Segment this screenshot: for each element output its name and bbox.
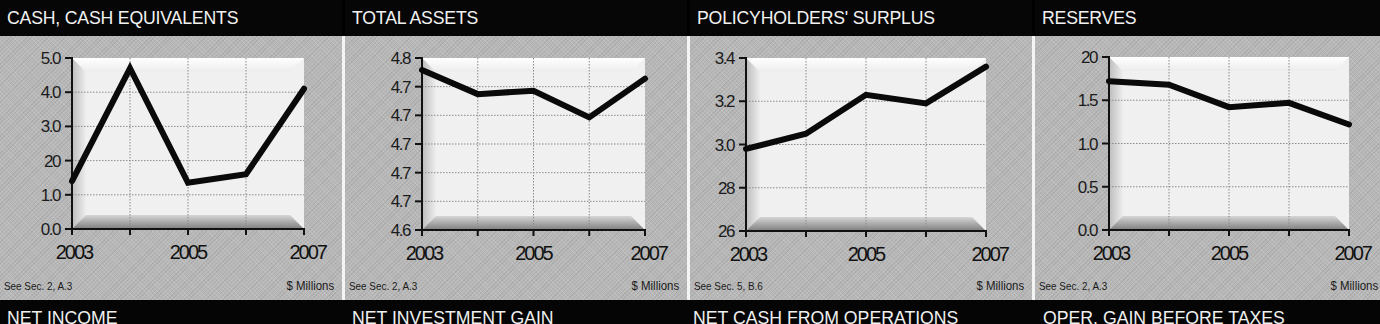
svg-text:2005: 2005	[170, 241, 208, 263]
section-reference: See Sec. 5, B.6	[694, 280, 763, 292]
line-chart: 0.00.51.01.520200320052007	[1035, 36, 1380, 280]
svg-text:2007: 2007	[631, 242, 669, 264]
svg-text:4.7: 4.7	[391, 164, 411, 183]
svg-text:2003: 2003	[56, 241, 94, 263]
chart-title-net-investment-gain: NET INVESTMENT GAIN	[352, 307, 554, 324]
svg-text:20: 20	[1081, 48, 1098, 67]
svg-text:3.4: 3.4	[715, 49, 735, 68]
chart-panel-policyholders-surplus: POLICYHOLDERS' SURPLUS 26283.03.23.42003…	[690, 0, 1032, 300]
units-label: $ Millions	[976, 278, 1024, 293]
panel-header: TOTAL ASSETS	[345, 0, 687, 36]
chart-title: CASH, CASH EQUIVALENTS	[7, 7, 238, 29]
svg-text:1.0: 1.0	[1078, 135, 1098, 154]
svg-text:28: 28	[718, 179, 735, 198]
chart-title-oper-gain-before-taxes: OPER. GAIN BEFORE TAXES	[1043, 307, 1285, 324]
svg-text:2003: 2003	[406, 242, 444, 264]
chart-title-net-cash-from-operations: NET CASH FROM OPERATIONS	[693, 307, 958, 324]
svg-text:2003: 2003	[1093, 242, 1131, 264]
svg-text:4.0: 4.0	[41, 83, 61, 102]
chart-panel-reserves: RESERVES 0.00.51.01.520200320052007 See …	[1035, 0, 1380, 300]
line-chart: 26283.03.23.4200320052007	[690, 36, 1032, 280]
svg-text:0.0: 0.0	[41, 220, 61, 239]
chart-title: TOTAL ASSETS	[352, 7, 478, 29]
section-reference: See Sec. 2, A.3	[1039, 280, 1107, 292]
chart-title-net-income: NET INCOME	[7, 307, 118, 324]
svg-text:2005: 2005	[515, 242, 553, 264]
svg-text:4.7: 4.7	[391, 78, 411, 97]
svg-text:1.5: 1.5	[1078, 91, 1098, 110]
panel-header: POLICYHOLDERS' SURPLUS	[690, 0, 1032, 36]
svg-text:2005: 2005	[848, 243, 886, 265]
units-label: $ Millions	[1330, 278, 1378, 293]
svg-text:5.0: 5.0	[41, 49, 61, 68]
svg-text:1.0: 1.0	[41, 186, 61, 205]
svg-text:4.8: 4.8	[391, 49, 411, 68]
svg-text:3.0: 3.0	[715, 136, 735, 155]
section-reference: See Sec. 2, A.3	[4, 280, 72, 292]
svg-text:2005: 2005	[1211, 242, 1249, 264]
units-label: $ Millions	[631, 278, 679, 293]
svg-text:4.7: 4.7	[391, 106, 411, 125]
chart-title: POLICYHOLDERS' SURPLUS	[697, 7, 935, 29]
chart-panel-cash: CASH, CASH EQUIVALENTS 0.01.0203.04.05.0…	[0, 0, 342, 300]
section-reference: See Sec. 2, A.3	[349, 280, 417, 292]
svg-text:0.0: 0.0	[1078, 221, 1098, 240]
chart-panel-total-assets: TOTAL ASSETS 4.64.74.74.74.74.74.8200320…	[345, 0, 687, 300]
line-chart: 4.64.74.74.74.74.74.8200320052007	[345, 36, 687, 280]
svg-text:3.0: 3.0	[41, 117, 61, 136]
svg-text:2007: 2007	[1335, 242, 1373, 264]
svg-text:4.6: 4.6	[391, 221, 411, 240]
svg-text:0.5: 0.5	[1078, 178, 1098, 197]
line-chart: 0.01.0203.04.05.0200320052007	[0, 36, 342, 280]
panel-header: CASH, CASH EQUIVALENTS	[0, 0, 342, 36]
svg-text:4.7: 4.7	[391, 192, 411, 211]
svg-text:3.2: 3.2	[715, 92, 735, 111]
svg-text:2007: 2007	[972, 243, 1010, 265]
svg-text:4.7: 4.7	[391, 135, 411, 154]
panel-header: RESERVES	[1035, 0, 1380, 36]
svg-text:26: 26	[718, 222, 735, 241]
svg-text:20: 20	[44, 152, 61, 171]
units-label: $ Millions	[286, 278, 334, 293]
chart-title: RESERVES	[1042, 7, 1136, 29]
svg-text:2007: 2007	[290, 241, 328, 263]
svg-text:2003: 2003	[730, 243, 768, 265]
